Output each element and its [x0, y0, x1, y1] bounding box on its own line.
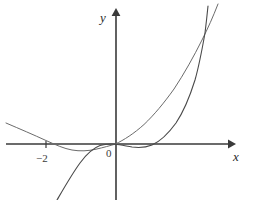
curve-shallow	[6, 4, 218, 151]
y-axis-label: y	[100, 11, 106, 24]
graph-canvas	[0, 0, 253, 200]
x-tick-label-minus-2: −2	[36, 153, 48, 164]
x-axis-label: x	[233, 150, 239, 163]
x-axis-arrow-icon	[228, 140, 236, 149]
graph-figure: y x 0 −2	[0, 0, 253, 200]
y-axis-arrow-icon	[112, 8, 121, 16]
origin-label: 0	[106, 148, 112, 159]
curve-cubic	[57, 6, 208, 200]
